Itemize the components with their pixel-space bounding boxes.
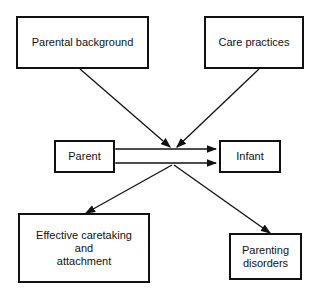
node-label-line: attachment	[57, 255, 111, 268]
node-label-line: and	[75, 242, 93, 255]
node-infant: Infant	[219, 140, 281, 173]
node-care-practices: Care practices	[204, 16, 304, 69]
node-label-line: Parenting	[242, 244, 289, 257]
node-label: Parent	[68, 150, 100, 163]
node-parent: Parent	[54, 140, 115, 173]
arrow-care-to-center	[177, 69, 259, 147]
node-label-line: Effective caretaking	[36, 229, 132, 242]
node-parental-background: Parental background	[16, 16, 149, 69]
arrow-background-to-center	[80, 69, 170, 147]
arrow-center-to-disorders	[174, 165, 270, 233]
node-label: Care practices	[219, 36, 290, 49]
parenting-diagram: Parental background Care practices Paren…	[0, 0, 316, 288]
node-label: Infant	[236, 150, 264, 163]
node-label: Parental background	[32, 36, 134, 49]
node-label-line: disorders	[243, 257, 288, 270]
node-parenting-disorders: Parenting disorders	[229, 233, 302, 280]
node-effective-caretaking: Effective caretaking and attachment	[18, 213, 150, 283]
